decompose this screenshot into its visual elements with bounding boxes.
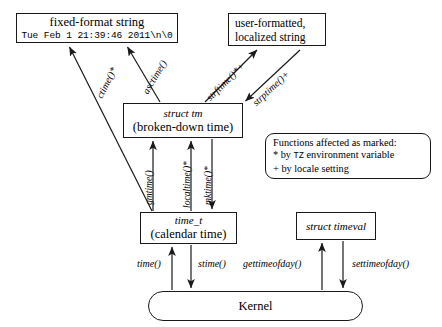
node-fixed-format-example: Tue Feb 1 21:39:46 2011\n\0 [17,29,177,42]
edge-label-gettimeofday: gettimeofday() [243,258,301,269]
edge-label-time: time() [137,258,161,269]
legend-box: Functions affected as marked: * by TZ en… [265,133,431,179]
legend-line-2: * by TZ environment variable [273,149,430,163]
legend-line-2-prefix: * by [273,149,294,160]
node-kernel-label: Kernel [149,299,362,313]
node-user-formatted-line1: user-formatted, [235,16,325,30]
node-fixed-format-string: fixed-format string Tue Feb 1 21:39:46 2… [16,13,178,43]
edge-label-settimeofday: settimeofday() [352,258,409,269]
node-user-formatted-string: user-formatted, localized string [228,13,326,46]
legend-line-1: Functions affected as marked: [273,137,430,150]
time-functions-diagram: fixed-format string Tue Feb 1 21:39:46 2… [0,0,442,327]
node-fixed-format-title: fixed-format string [17,15,177,29]
edge-label-mktime: mktime()* [202,166,213,205]
legend-line-3: + by locale setting [273,163,430,176]
node-struct-timeval-type: struct timeval [297,219,375,233]
node-time-t-desc: (calendar time) [141,227,236,242]
node-time-t-type: time_t [141,214,236,227]
edge-label-gmtime: gmtime() [143,170,154,205]
node-struct-tm: struct tm (broken-down time) [123,103,243,138]
node-struct-timeval: struct timeval [296,212,376,240]
node-struct-tm-type: struct tm [124,106,242,120]
edge-label-stime: stime() [198,258,226,269]
legend-tz-token: TZ [294,151,304,161]
legend-line-2-suffix: environment variable [304,149,394,160]
node-user-formatted-line2: localized string [235,30,325,44]
node-kernel: Kernel [148,291,363,321]
edge-label-localtime: localtime()* [181,161,192,208]
node-time-t: time_t (calendar time) [140,212,237,244]
node-struct-tm-desc: (broken-down time) [124,120,242,135]
